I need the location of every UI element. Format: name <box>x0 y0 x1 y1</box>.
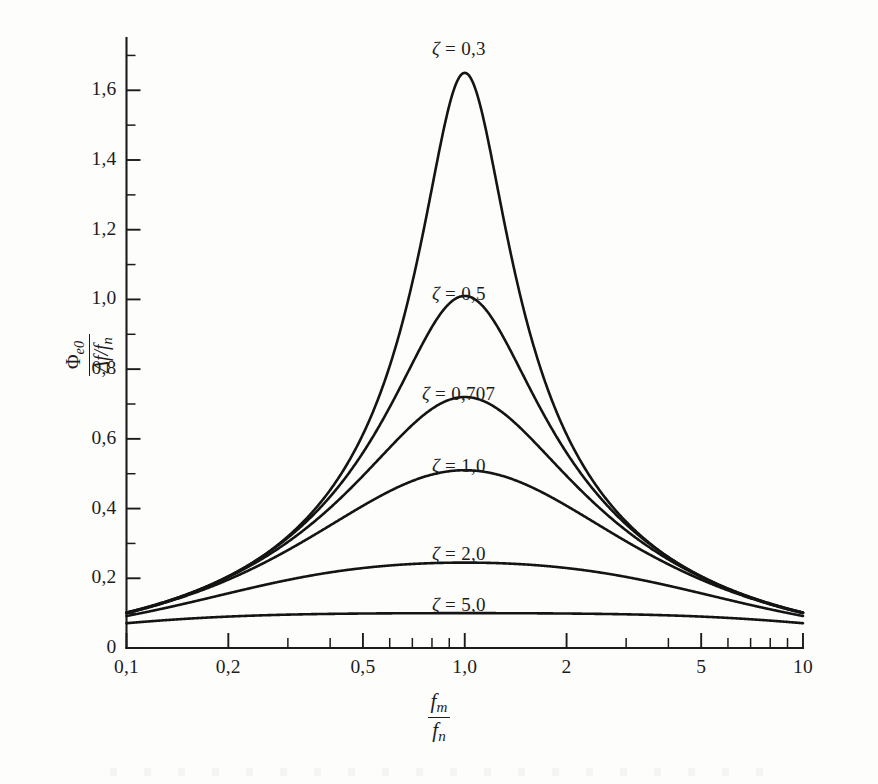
zeta-symbol: ζ <box>432 455 440 476</box>
y-axis-title-denominator: Δf/fn <box>90 334 116 376</box>
equals-sign: = <box>440 455 461 476</box>
equals-sign: = <box>440 38 461 59</box>
y-axis-title-fraction: Φe0 Δf/fn <box>63 334 115 376</box>
x-axis-title-denominator: fn <box>428 718 451 745</box>
x-tick-label: 2 <box>537 656 597 678</box>
x-axis-title-numerator-subscript: m <box>436 699 447 715</box>
y-tick-label: 1,6 <box>47 78 117 100</box>
x-axis-title: fm fn <box>0 690 878 744</box>
curve-label: ζ = 0,707 <box>422 383 495 405</box>
curve-zeta-1 <box>127 470 804 613</box>
y-axis-title-denominator-symbol: Δf/f <box>90 344 112 372</box>
zeta-symbol: ζ <box>432 543 440 564</box>
x-tick-label: 1,0 <box>435 656 495 678</box>
curve-label: ζ = 0,5 <box>432 283 486 305</box>
x-tick-label: 0,5 <box>333 656 393 678</box>
y-axis-title-numerator: Φe0 <box>63 334 90 376</box>
y-axis-title-denominator-subscript: n <box>99 337 115 344</box>
y-axis-title-numerator-subscript: e0 <box>71 341 87 355</box>
equals-sign: = <box>440 543 461 564</box>
x-tick-label: 0,2 <box>198 656 258 678</box>
x-tick-label: 10 <box>773 656 833 678</box>
y-tick-label: 0,4 <box>47 497 117 519</box>
equals-sign: = <box>440 594 461 615</box>
zeta-symbol: ζ <box>422 383 430 404</box>
curve-label: ζ = 0,3 <box>432 38 486 60</box>
y-tick-label: 1,4 <box>47 148 117 170</box>
zeta-value: 5,0 <box>461 594 486 615</box>
y-axis-title: Φe0 Δf/fn <box>34 300 144 410</box>
y-tick-label: 1,2 <box>47 218 117 240</box>
zeta-value: 2,0 <box>461 543 486 564</box>
y-tick-label: 0,2 <box>47 566 117 588</box>
zeta-value: 0,5 <box>461 283 486 304</box>
equals-sign: = <box>430 383 451 404</box>
curve-label: ζ = 2,0 <box>432 543 486 565</box>
x-tick-label: 0,1 <box>97 656 157 678</box>
curve-group <box>127 73 804 623</box>
x-axis-title-numerator: fm <box>428 690 451 718</box>
curve-zeta-0-3 <box>127 73 804 613</box>
curve-label: ζ = 5,0 <box>432 594 486 616</box>
y-tick-label: 0,6 <box>47 427 117 449</box>
figure-canvas: 00,20,40,60,81,01,21,41,6 0,10,20,51,025… <box>0 0 878 784</box>
x-tick-label: 5 <box>671 656 731 678</box>
x-axis-title-fraction: fm fn <box>428 690 451 744</box>
y-tick-label: 0 <box>47 636 117 658</box>
zeta-symbol: ζ <box>432 38 440 59</box>
curve-label: ζ = 1,0 <box>432 455 486 477</box>
y-axis-title-numerator-symbol: Φ <box>62 354 84 369</box>
equals-sign: = <box>440 283 461 304</box>
zeta-value: 0,707 <box>451 383 495 404</box>
zeta-symbol: ζ <box>432 283 440 304</box>
zeta-value: 1,0 <box>461 455 486 476</box>
x-axis-ticks <box>127 633 804 648</box>
page-scan-artifact <box>110 768 770 776</box>
zeta-symbol: ζ <box>432 594 440 615</box>
zeta-value: 0,3 <box>461 38 486 59</box>
x-axis-title-denominator-subscript: n <box>438 728 446 744</box>
